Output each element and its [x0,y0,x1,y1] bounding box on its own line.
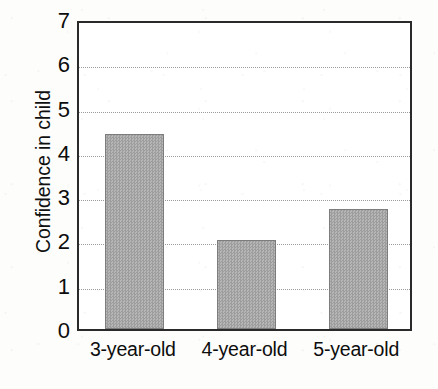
plot-area [77,21,412,331]
y-axis-tick-label: 2 [40,231,70,253]
y-axis-tick-label: 4 [40,143,70,165]
y-axis-tick-label: 3 [40,187,70,209]
x-axis-tick-label: 4-year-old [202,338,288,361]
x-axis-tick-label-group: 3-year-old4-year-old5-year-old [77,338,412,372]
y-axis-tick-label: 0 [40,320,70,342]
bar [329,209,388,329]
x-axis-tick-label: 5-year-old [313,338,399,361]
bar [217,240,276,329]
y-axis-tick-label: 5 [40,99,70,121]
y-axis-tick-label-group: 01234567 [40,0,70,389]
y-axis-tick-label: 6 [40,54,70,76]
y-axis-tick-label: 7 [40,10,70,32]
x-axis-tick-label: 3-year-old [90,338,176,361]
bar-chart-figure: Confidence in child 01234567 3-year-old4… [0,0,438,389]
y-axis-tick-label: 1 [40,276,70,298]
bar [105,134,164,329]
bar-group [79,23,410,329]
